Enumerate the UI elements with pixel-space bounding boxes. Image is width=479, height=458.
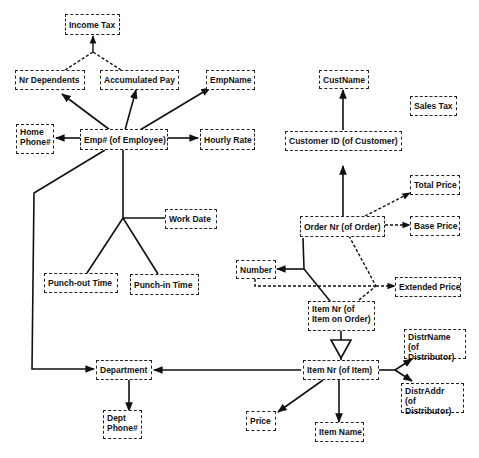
node-base-price: Base Price: [410, 216, 460, 236]
node-dept-phone: Dept Phone#: [103, 410, 142, 439]
node-item-name: Item Name: [315, 422, 364, 442]
node-sales-tax: Sales Tax: [410, 96, 457, 116]
node-price: Price: [246, 411, 276, 431]
node-number: Number: [236, 260, 276, 279]
node-department: Department: [96, 360, 152, 380]
node-cust-name: CustName: [319, 70, 369, 89]
node-item-nr: Item Nr (of Item): [303, 360, 379, 380]
diagram-canvas: Income Tax Nr Dependents Accumulated Pay…: [0, 0, 479, 458]
node-income-tax: Income Tax: [65, 14, 120, 35]
node-customer-id: Customer ID (of Customer): [285, 131, 402, 151]
node-order-nr: Order Nr (of Order): [300, 216, 385, 237]
node-emp-id: Emp# (of Employee): [80, 129, 168, 150]
node-work-date: Work Date: [165, 209, 217, 229]
node-total-price: Total Price: [410, 175, 460, 195]
node-distr-addr: DistrAddr (of Distributor): [401, 383, 464, 413]
node-punch-out-time: Punch-out Time: [44, 273, 118, 293]
node-emp-name: EmpName: [206, 70, 255, 90]
node-accumulated-pay: Accumulated Pay: [100, 70, 179, 90]
node-home-phone: Home Phone#: [16, 124, 54, 154]
node-extended-price: Extended Price: [395, 277, 461, 297]
node-nr-dependents: Nr Dependents: [15, 70, 85, 90]
node-distr-name: DistrName (of Distributor): [404, 329, 466, 359]
node-hourly-rate: Hourly Rate: [200, 129, 255, 150]
node-punch-in-time: Punch-in Time: [130, 274, 199, 295]
node-item-on-order: Item Nr (of Item on Order): [308, 301, 375, 331]
